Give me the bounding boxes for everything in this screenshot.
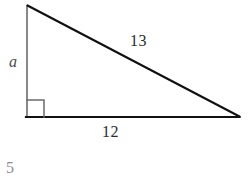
- triangle-hypotenuse: [28, 6, 240, 117]
- right-triangle-drawing: [0, 0, 251, 185]
- figure-canvas: 13 12 a 5: [0, 0, 251, 185]
- right-angle-square-icon: [27, 100, 44, 117]
- base-length-label: 12: [102, 124, 119, 140]
- leg-variable-label: a: [9, 54, 17, 70]
- answer-caption-label: 5: [6, 160, 14, 176]
- hypotenuse-length-label: 13: [130, 33, 147, 49]
